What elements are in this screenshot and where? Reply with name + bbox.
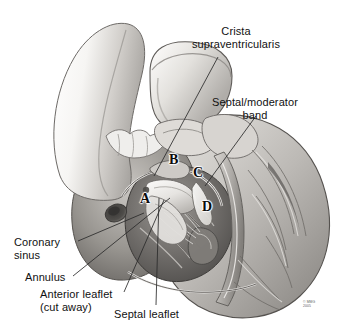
copyright-credit: © MMG2005 [303, 300, 315, 308]
label-line-2: sinus [14, 249, 60, 262]
credit-line-2: 2005 [303, 304, 315, 308]
heart-illustration [0, 0, 357, 334]
label-anterior-leaflet: Anterior leaflet(cut away) [40, 288, 113, 313]
label-line-1: Septal/moderator [212, 96, 298, 109]
marker-c: C [193, 165, 203, 181]
label-line-1: Annulus [25, 271, 65, 284]
label-coronary-sinus: Coronarysinus [14, 236, 60, 261]
marker-b: B [169, 152, 178, 168]
label-line-1: Septal leaflet [114, 308, 179, 321]
label-crista-supraventricularis: Cristasupraventricularis [192, 25, 280, 50]
label-line-2: supraventricularis [192, 38, 280, 51]
label-line-2: band [212, 109, 298, 122]
label-annulus: Annulus [25, 271, 65, 284]
label-septal-leaflet: Septal leaflet [114, 308, 179, 321]
label-septal-moderator-band: Septal/moderatorband [212, 96, 298, 121]
marker-a: A [140, 191, 150, 207]
label-line-2: (cut away) [40, 301, 113, 314]
heart-anatomy-figure: CristasupraventricularisSeptal/moderator… [0, 0, 357, 334]
label-line-1: Coronary [14, 236, 60, 249]
label-line-1: Crista [192, 25, 280, 38]
marker-d: D [202, 199, 212, 215]
label-line-1: Anterior leaflet [40, 288, 113, 301]
